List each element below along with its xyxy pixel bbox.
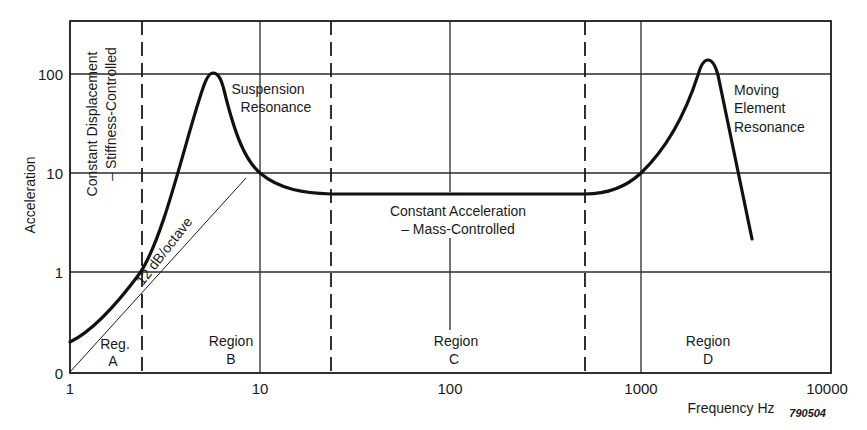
y-tick-100: 100 xyxy=(38,66,63,83)
figure-id: 790504 xyxy=(789,407,826,419)
region-c-letter: C xyxy=(449,351,459,367)
region-a-label: Reg. xyxy=(100,336,130,352)
x-tick-10: 10 xyxy=(252,380,269,397)
region-c-description-2: – Mass-Controlled xyxy=(401,221,515,237)
x-tick-100: 100 xyxy=(437,380,462,397)
region-d-label: Region xyxy=(686,333,730,349)
region-b-label: Region xyxy=(209,333,253,349)
y-tick-10: 10 xyxy=(46,165,63,182)
suspension-resonance-label: Suspension xyxy=(231,81,304,97)
moving-element-label-2: Element xyxy=(734,100,785,116)
region-a-letter: A xyxy=(108,353,118,369)
chart: 100 10 1 0 1 10 100 1000 10000 Accelerat… xyxy=(0,0,867,430)
moving-element-label: Moving xyxy=(734,82,779,98)
region-b-letter: B xyxy=(226,351,235,367)
region-a-description-2: – Stiffness-Controlled xyxy=(103,47,119,181)
response-curve xyxy=(70,60,752,342)
y-axis-label: Acceleration xyxy=(22,156,38,233)
x-tick-1000: 1000 xyxy=(624,380,657,397)
x-tick-10000: 10000 xyxy=(806,380,848,397)
region-c-description: Constant Acceleration xyxy=(390,203,526,219)
y-tick-1: 1 xyxy=(55,264,63,281)
region-d-letter: D xyxy=(703,351,713,367)
x-axis-label: Frequency Hz xyxy=(687,400,774,416)
slope-label: 12 dB/octave xyxy=(133,214,196,288)
suspension-resonance-label-2: Resonance xyxy=(241,99,312,115)
moving-element-label-3: Resonance xyxy=(734,119,805,135)
x-tick-1: 1 xyxy=(66,380,74,397)
region-c-label: Region xyxy=(434,333,478,349)
region-a-description: Constant Displacement xyxy=(84,52,100,197)
y-tick-0: 0 xyxy=(55,365,63,382)
